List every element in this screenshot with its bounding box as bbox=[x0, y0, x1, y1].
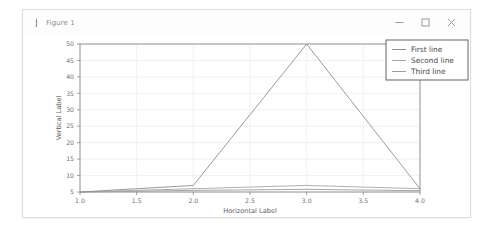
minimize-button[interactable] bbox=[386, 12, 412, 34]
y-tick-label: 15 bbox=[66, 155, 74, 162]
x-tick-label: 4.0 bbox=[415, 197, 425, 204]
figure-window: Figure 1 bbox=[22, 9, 471, 218]
legend-label-third: Third line bbox=[410, 67, 446, 76]
y-tick-label: 20 bbox=[66, 139, 74, 146]
x-axis-label: Horizontal Label bbox=[223, 207, 277, 215]
legend[interactable]: First line Second line Third line bbox=[386, 40, 468, 80]
window-titlebar[interactable]: Figure 1 bbox=[23, 10, 470, 35]
legend-label-second: Second line bbox=[411, 56, 454, 65]
maximize-button[interactable] bbox=[412, 12, 438, 34]
window-controls bbox=[386, 10, 470, 35]
y-tick-label: 10 bbox=[66, 172, 74, 179]
x-tick-label: 1.0 bbox=[75, 197, 85, 204]
x-tick-label: 1.5 bbox=[132, 197, 142, 204]
x-tick-label: 3.5 bbox=[358, 197, 368, 204]
window-title: Figure 1 bbox=[46, 19, 75, 27]
y-axis-label: Vertical Label bbox=[55, 96, 63, 141]
y-tick-labels: 5 10 15 20 25 30 35 40 45 50 bbox=[66, 40, 74, 195]
x-tick-label: 2.0 bbox=[188, 197, 198, 204]
close-icon bbox=[447, 18, 456, 27]
maximize-icon bbox=[421, 18, 430, 27]
y-tick-label: 30 bbox=[66, 106, 74, 113]
figure-canvas: 5 10 15 20 25 30 35 40 45 50 1.0 1.5 2.0… bbox=[23, 35, 470, 217]
matplotlib-icon bbox=[31, 17, 42, 28]
legend-label-first: First line bbox=[411, 45, 443, 54]
window-title-group: Figure 1 bbox=[23, 17, 75, 28]
minimize-icon bbox=[395, 18, 404, 27]
y-tick-label: 50 bbox=[66, 40, 74, 47]
y-tick-label: 45 bbox=[66, 57, 74, 64]
y-tick-label: 35 bbox=[66, 90, 74, 97]
x-tick-label: 3.0 bbox=[302, 197, 312, 204]
y-tick-label: 25 bbox=[66, 122, 74, 129]
y-tick-label: 40 bbox=[66, 73, 74, 80]
x-tick-labels: 1.0 1.5 2.0 2.5 3.0 3.5 4.0 bbox=[75, 197, 425, 204]
x-tick-label: 2.5 bbox=[245, 197, 255, 204]
plot-svg: 5 10 15 20 25 30 35 40 45 50 1.0 1.5 2.0… bbox=[23, 35, 470, 217]
y-tick-label: 5 bbox=[70, 188, 74, 195]
close-button[interactable] bbox=[438, 12, 464, 34]
